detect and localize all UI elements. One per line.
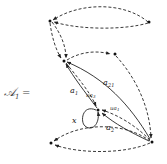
- arrow-top-upper: [53, 7, 148, 22]
- node-mid-right: [114, 53, 117, 56]
- label-a21-sub: 21: [107, 82, 114, 88]
- label-ua1-sub: 1: [117, 107, 120, 112]
- arrow-ml-to-center: [66, 63, 96, 106]
- label-ua3: ua: [86, 92, 93, 98]
- label-ua3-sub: 3: [93, 94, 96, 99]
- arrow-br-to-bl-lower: [55, 143, 150, 152]
- dashed-arrows: [50, 7, 151, 152]
- arrow-ml-to-mr: [67, 52, 110, 60]
- arrow-tl-to-ml-1: [50, 23, 61, 58]
- arrow-top-lower: [54, 22, 148, 28]
- node-bottom-right: [151, 141, 154, 144]
- arrow-tl-to-ml-2: [52, 22, 66, 58]
- loop-x: [83, 109, 99, 128]
- quiver-title: 𝒜 1 =: [4, 85, 30, 101]
- label-ua1: ua: [110, 105, 117, 111]
- node-mid-left: [63, 60, 66, 63]
- label-a2-sub: 2: [110, 127, 114, 133]
- node-bottom-left: [50, 142, 53, 145]
- node-top-left: [49, 20, 52, 23]
- title-subscript: 1: [15, 93, 19, 101]
- label-x: x: [72, 116, 77, 125]
- label-a1-sub: 1: [75, 90, 78, 96]
- quiver-diagram: 𝒜 1 = a 21 a 1 a 2: [0, 0, 167, 164]
- node-top-right: [148, 21, 151, 24]
- title-equals: =: [22, 87, 30, 98]
- node-center: [97, 109, 100, 112]
